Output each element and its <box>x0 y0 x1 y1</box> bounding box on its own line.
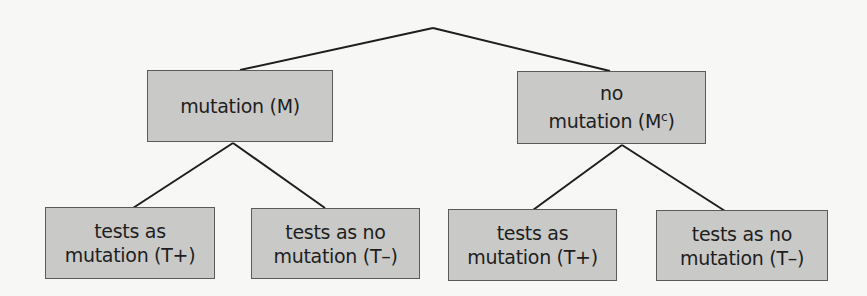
node-m-tests-negative: tests as no mutation (T–) <box>251 208 420 279</box>
node-mutation-label: mutation (M) <box>180 94 300 118</box>
node-mutation: mutation (M) <box>147 70 333 142</box>
edge-root-to-no-mutation <box>433 28 610 71</box>
edge-mutation-to-tplus <box>133 143 233 208</box>
node-no-mutation-label: no mutation (Mc) <box>548 81 674 133</box>
node-no-mutation: no mutation (Mc) <box>517 71 706 144</box>
node-mc-tests-negative: tests as no mutation (T–) <box>656 210 828 281</box>
edge-root-to-mutation <box>240 28 433 70</box>
edge-mutation-to-tminus <box>233 143 325 208</box>
edge-no-mutation-to-tplus <box>533 145 622 210</box>
node-m-tests-positive: tests as mutation (T+) <box>45 207 215 279</box>
node-mc-tests-positive: tests as mutation (T+) <box>448 209 617 281</box>
edge-no-mutation-to-tminus <box>622 145 725 211</box>
